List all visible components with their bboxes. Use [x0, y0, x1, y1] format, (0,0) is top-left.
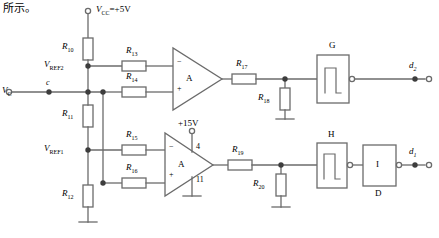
r15-sub: 15 [132, 135, 138, 141]
resistor-R14-label: R14 [126, 72, 138, 83]
block-G-outline [317, 55, 349, 103]
r19-sub: 19 [238, 150, 244, 156]
resistor-R16-body [122, 178, 146, 188]
vref1-label: VREF1 [44, 144, 64, 155]
block-H-label[interactable]: H [328, 130, 335, 139]
resistor-R11-body [83, 105, 93, 127]
resistor-R17-label: R17 [236, 59, 248, 70]
vcc-label: VCC=+5V [96, 5, 131, 16]
resistor-R11-label: R11 [62, 109, 73, 120]
r16-sub: 16 [132, 168, 138, 174]
r14-sub: 14 [132, 77, 138, 83]
output-d2-label: d2 [409, 61, 417, 72]
output-d1-label: d1 [409, 147, 417, 158]
d2-terminal-circle [426, 76, 431, 81]
r20-sub: 20 [259, 184, 265, 190]
d1-sub: 1 [414, 152, 417, 158]
r17-sub: 17 [242, 64, 248, 70]
opamp-bottom-noninverting-mark: + [169, 171, 174, 179]
v15-label: +15V [178, 119, 199, 128]
opamp-top-label: A [186, 74, 193, 83]
opamp-bottom-inverting-mark: − [169, 143, 174, 151]
block-D-sublabel: D [375, 189, 382, 198]
resistor-R20-label: R20 [253, 179, 265, 190]
resistor-R14-body [122, 87, 146, 97]
r12-sub: 12 [68, 194, 74, 200]
node-c-label: c [46, 79, 50, 87]
opamp-top-inverting-mark: − [177, 58, 182, 66]
page-heading: 所示。 [3, 3, 36, 14]
resistor-R18-label: R18 [258, 93, 270, 104]
block-G-label[interactable]: G [329, 41, 336, 50]
block-I-outline [363, 145, 396, 186]
resistor-R12-label: R12 [62, 189, 74, 200]
opamp-bottom-pin-vcc: 4 [196, 143, 200, 151]
resistor-R13-label: R13 [126, 46, 138, 57]
resistor-R15-label: R15 [126, 130, 138, 141]
v15-terminal-circle [189, 128, 194, 133]
block-I-output-bubble [396, 162, 401, 167]
vcc-label-value: =+5V [110, 4, 131, 14]
resistor-R19-body [228, 160, 252, 170]
resistor-R13-body [122, 61, 146, 71]
block-H-outline [317, 143, 347, 188]
resistor-R15-body [122, 145, 146, 155]
d1-terminal-circle [426, 162, 431, 167]
resistor-R10-label: R10 [62, 42, 74, 53]
vref1-sub: REF1 [50, 149, 64, 155]
resistor-R17-body [232, 74, 256, 84]
vcc-terminal-circle [85, 8, 90, 13]
resistor-R20-body [276, 174, 286, 196]
r18-sub: 18 [264, 98, 270, 104]
circuit-diagram: 所示。 VCC=+5V R10 VREF2 R13 R14 VC c R11 V… [0, 0, 439, 238]
r11-sub: 11 [68, 114, 74, 120]
opamp-bottom-label: A [178, 160, 185, 169]
r10-sub: 10 [68, 47, 74, 53]
vcc-label-sub: CC [102, 10, 110, 16]
vref2-label: VREF2 [44, 60, 64, 71]
resistor-R16-label: R16 [126, 163, 138, 174]
resistor-R10-body [83, 38, 93, 60]
resistor-R18-body [280, 88, 290, 110]
vc-label: VC [2, 86, 12, 97]
d2-sub: 2 [414, 66, 417, 72]
block-H-output-bubble [347, 162, 352, 167]
opamp-top-noninverting-mark: + [177, 85, 182, 93]
r13-sub: 13 [132, 51, 138, 57]
resistor-R12-body [83, 185, 93, 207]
opamp-bottom-pin-gnd: 11 [196, 176, 204, 184]
resistor-R19-label: R19 [232, 145, 244, 156]
block-I-label[interactable]: I [376, 160, 379, 169]
vc-sub: C [8, 91, 12, 97]
block-G-output-bubble [349, 76, 354, 81]
vref2-sub: REF2 [50, 65, 64, 71]
